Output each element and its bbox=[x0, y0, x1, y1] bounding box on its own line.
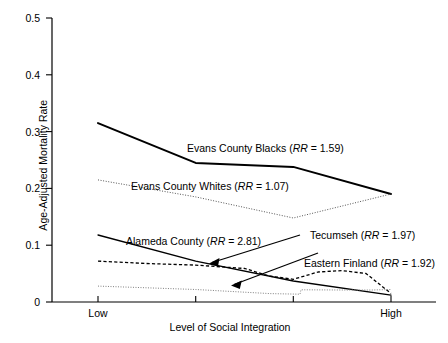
series-label-eastern-finland: Eastern Finland (RR = 1.92) bbox=[304, 258, 435, 269]
y-tick-label-0.2: 0.2 bbox=[6, 183, 40, 194]
series-label-text: Alameda County ( bbox=[126, 235, 210, 247]
rr-value: = 1.59) bbox=[308, 142, 344, 154]
x-axis-title: Level of Social Integration bbox=[120, 322, 340, 333]
y-tick-label-0.5: 0.5 bbox=[6, 13, 40, 24]
rr-symbol: RR bbox=[210, 235, 225, 247]
series-label-text: Tecumseh ( bbox=[310, 229, 364, 241]
y-tick-label-0: 0 bbox=[6, 297, 40, 308]
series-label-text: Evans County Blacks ( bbox=[187, 142, 293, 154]
series-label-evans-county-whites: Evans County Whites (RR = 1.07) bbox=[131, 181, 289, 192]
y-tick-label-0.1: 0.1 bbox=[6, 240, 40, 251]
rr-symbol: RR bbox=[293, 142, 308, 154]
rr-symbol: RR bbox=[364, 229, 379, 241]
series-label-tecumseh: Tecumseh (RR = 1.97) bbox=[310, 230, 415, 241]
y-axis-title: Age-Adjusted Mortality Rate bbox=[38, 65, 49, 265]
rr-symbol: RR bbox=[384, 257, 399, 269]
series-label-alameda-county: Alameda County (RR = 2.81) bbox=[126, 236, 261, 247]
rr-value: = 2.81) bbox=[225, 235, 261, 247]
series-label-text: Evans County Whites ( bbox=[131, 180, 238, 192]
rr-value: = 1.07) bbox=[253, 180, 289, 192]
rr-value: = 1.92) bbox=[399, 257, 435, 269]
y-tick-label-0.3: 0.3 bbox=[6, 127, 40, 138]
series-label-evans-county-blacks: Evans County Blacks (RR = 1.59) bbox=[187, 143, 344, 154]
x-axis-ticks bbox=[98, 296, 391, 302]
rr-value: = 1.97) bbox=[379, 229, 415, 241]
series-line-eastern-finland bbox=[98, 286, 391, 294]
series-label-text: Eastern Finland ( bbox=[304, 257, 384, 269]
y-tick-label-0.4: 0.4 bbox=[6, 70, 40, 81]
chart-plot-area bbox=[0, 0, 448, 343]
x-tick-label-low: Low bbox=[73, 308, 123, 319]
chart-figure: 0.5 0.4 0.3 0.2 0.1 0 Low High Age-Adjus… bbox=[0, 0, 448, 343]
rr-symbol: RR bbox=[238, 180, 253, 192]
x-tick-label-high: High bbox=[366, 308, 416, 319]
